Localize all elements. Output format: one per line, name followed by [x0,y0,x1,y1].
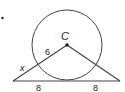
right-side-segment [67,45,120,81]
center-label: C [61,30,69,42]
base-left-label: 8 [36,83,41,92]
base-right-label: 8 [93,83,98,92]
geometry-diagram: C 6 x 8 8 [0,0,125,92]
bullet-dot [1,17,4,20]
radius-label: 6 [45,47,50,57]
unknown-x-label: x [19,63,25,73]
center-point [65,43,69,47]
